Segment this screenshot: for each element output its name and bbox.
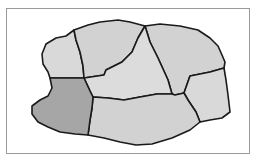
region-map <box>0 0 264 164</box>
region-south-center[interactable] <box>88 93 200 145</box>
region-west-lower-highlighted[interactable] <box>32 78 93 135</box>
